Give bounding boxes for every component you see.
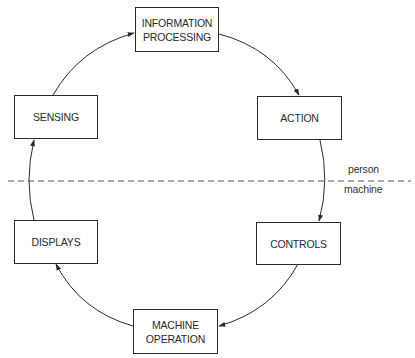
arrow-controls-to-machine-operation bbox=[219, 264, 298, 326]
node-action: ACTION bbox=[257, 96, 342, 140]
node-label: MACHINE OPERATION bbox=[146, 318, 205, 346]
arrow-displays-to-sensing bbox=[29, 140, 34, 220]
connector-layer bbox=[0, 0, 415, 358]
node-label: SENSING bbox=[33, 110, 79, 124]
node-label: INFORMATION PROCESSING bbox=[142, 16, 213, 44]
node-label: ACTION bbox=[280, 111, 318, 125]
node-displays: DISPLAYS bbox=[14, 220, 98, 264]
arrow-machine-operation-to-displays bbox=[56, 264, 133, 326]
arrow-sensing-to-information-processing bbox=[53, 33, 134, 95]
zone-label-machine: machine bbox=[344, 183, 382, 195]
node-controls: CONTROLS bbox=[256, 222, 341, 265]
node-machine-operation: MACHINE OPERATION bbox=[133, 309, 218, 354]
node-sensing: SENSING bbox=[14, 95, 98, 139]
node-label: CONTROLS bbox=[270, 237, 327, 251]
node-information-processing: INFORMATION PROCESSING bbox=[135, 7, 219, 52]
zone-label-person: person bbox=[348, 163, 379, 175]
node-label: DISPLAYS bbox=[32, 235, 81, 249]
person-machine-loop-diagram: INFORMATION PROCESSING ACTION CONTROLS M… bbox=[0, 0, 415, 358]
arrow-information-processing-to-action bbox=[219, 34, 299, 95]
